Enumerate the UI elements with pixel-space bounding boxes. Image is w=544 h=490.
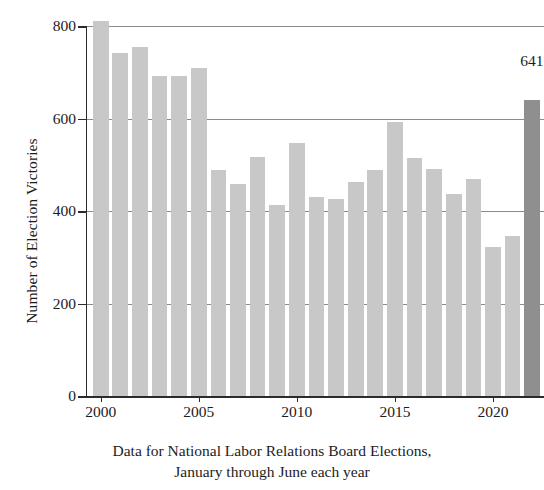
y-axis-tick-label: 800: [0, 17, 76, 35]
bar: [171, 76, 187, 396]
bar: [250, 157, 266, 396]
bar: [112, 53, 128, 396]
bar: [132, 47, 148, 396]
bar: [348, 182, 364, 396]
bar: [407, 158, 423, 396]
x-axis-tick-label: 2005: [167, 403, 231, 421]
y-axis-tick-label: 400: [0, 202, 76, 220]
x-axis-tick-mark: [395, 396, 396, 402]
caption-line-1: Data for National Labor Relations Board …: [0, 440, 544, 461]
plot-area: [87, 26, 544, 396]
figure-caption: Data for National Labor Relations Board …: [0, 440, 544, 482]
bar: [505, 236, 521, 396]
y-axis-tick-label: 0: [0, 387, 76, 405]
bar: [191, 68, 207, 396]
bar-chart-figure: Number of Election Victories 02004006008…: [0, 0, 544, 490]
bar: [211, 170, 227, 396]
bar: [289, 143, 305, 396]
x-axis-tick-mark: [199, 396, 200, 402]
bar: [230, 184, 246, 396]
bar: [426, 169, 442, 396]
x-axis-tick-mark: [493, 396, 494, 402]
bar: [466, 179, 482, 396]
gridline: [87, 26, 544, 27]
bar: [485, 247, 501, 396]
y-axis-tick-label: 200: [0, 295, 76, 313]
bar-value-label: 641: [520, 52, 543, 70]
bar: [328, 199, 344, 396]
x-axis-tick-label: 2000: [69, 403, 133, 421]
bar: [152, 76, 168, 396]
y-axis-tick-mark: [78, 119, 87, 121]
y-axis-tick-mark: [78, 26, 87, 28]
y-axis-tick-mark: [78, 304, 87, 306]
y-axis-tick-mark: [78, 211, 87, 213]
bar: [269, 205, 285, 396]
bar: [93, 21, 109, 396]
x-axis-tick-label: 2015: [363, 403, 427, 421]
bar: [367, 170, 383, 396]
x-axis-tick-label: 2010: [265, 403, 329, 421]
caption-line-2: January through June each year: [0, 461, 544, 482]
x-axis-tick-mark: [101, 396, 102, 402]
y-axis-tick-label: 600: [0, 110, 76, 128]
bar: [387, 122, 403, 396]
x-axis-tick-mark: [297, 396, 298, 402]
bar: [446, 194, 462, 396]
x-axis-line: [86, 396, 544, 398]
y-axis-tick-mark: [78, 396, 87, 398]
x-axis-tick-label: 2020: [461, 403, 525, 421]
bar: [309, 197, 325, 396]
bar: [524, 100, 540, 396]
